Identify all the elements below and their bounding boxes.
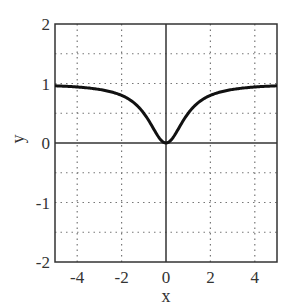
- line-chart: -4-2024 -2-1012 x y: [0, 0, 296, 306]
- y-tick-label: -1: [36, 194, 50, 213]
- y-tick-label: 1: [42, 75, 51, 94]
- y-tick-label: 0: [42, 134, 51, 153]
- x-tick-label: 2: [206, 268, 215, 287]
- y-tick-label: -2: [36, 253, 50, 272]
- y-axis-label: y: [8, 135, 28, 144]
- x-tick-labels: -4-2024: [70, 268, 259, 287]
- y-tick-labels: -2-1012: [36, 15, 50, 272]
- x-tick-label: -2: [115, 268, 129, 287]
- y-tick-label: 2: [42, 15, 51, 34]
- x-tick-label: 0: [162, 268, 171, 287]
- x-axis-label: x: [162, 286, 171, 306]
- x-tick-label: -4: [70, 268, 85, 287]
- x-tick-label: 4: [251, 268, 260, 287]
